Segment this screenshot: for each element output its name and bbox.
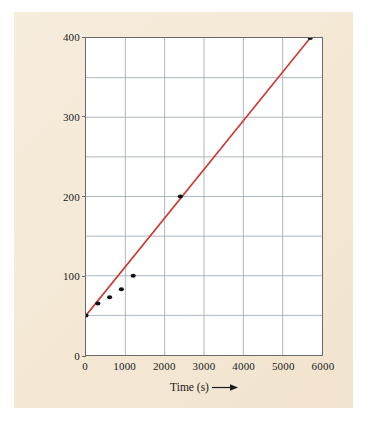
y-tick-mark: [82, 196, 86, 197]
data-point-marker: [119, 287, 124, 291]
y-tick-label: 0: [74, 350, 80, 362]
x-axis-title-text: Time (s): [170, 381, 209, 393]
y-tick-mark: [82, 356, 86, 357]
figure-container: 0100200300400 0100020003000400050006000 …: [0, 0, 370, 428]
y-tick-label: 300: [63, 111, 80, 123]
y-axis-tick-labels: 0100200300400: [46, 37, 80, 356]
data-point-marker: [178, 195, 183, 199]
y-tick-label: 200: [63, 191, 80, 203]
arrow-right-icon: [212, 382, 238, 394]
data-point-marker: [107, 295, 112, 299]
x-tick-label: 2000: [153, 360, 176, 372]
data-point-marker: [95, 301, 100, 305]
y-tick-label: 400: [63, 31, 80, 43]
x-tick-label: 5000: [272, 360, 295, 372]
x-tick-label: 0: [82, 360, 88, 372]
y-tick-mark: [82, 116, 86, 117]
y-tick-mark: [82, 276, 86, 277]
x-axis-tick-labels: 0100020003000400050006000: [85, 360, 323, 376]
x-tick-label: 4000: [232, 360, 255, 372]
y-tick-mark: [82, 37, 86, 38]
x-tick-label: 6000: [312, 360, 335, 372]
plot-svg: [86, 38, 322, 355]
x-tick-label: 1000: [113, 360, 136, 372]
y-tick-label: 100: [63, 270, 80, 282]
x-axis-title: Time (s): [85, 381, 323, 394]
data-point-marker: [86, 313, 89, 317]
data-line: [86, 38, 310, 315]
plot-area: [85, 37, 323, 356]
data-point-marker: [131, 274, 136, 278]
x-tick-label: 3000: [193, 360, 216, 372]
